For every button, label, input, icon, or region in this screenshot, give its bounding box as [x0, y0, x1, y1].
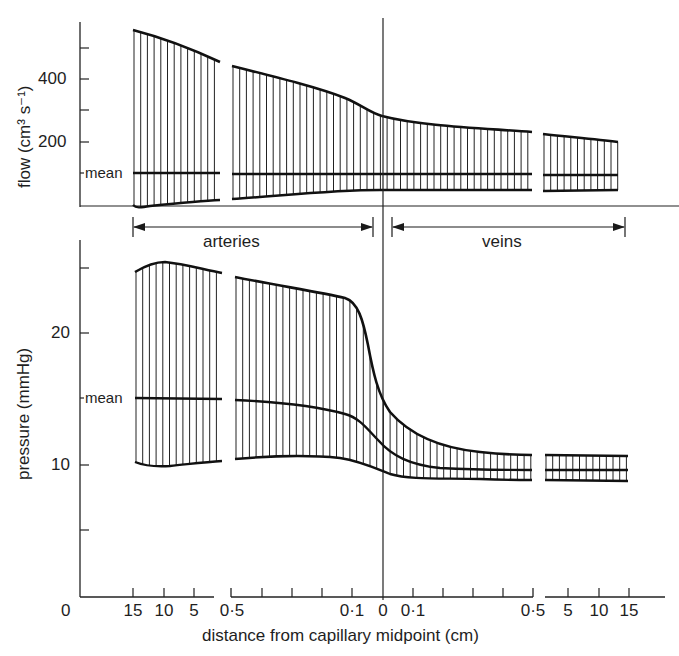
- flow-min-curve-3: [543, 190, 618, 191]
- flow-tick-200: 200: [38, 132, 66, 152]
- flow-min-curve-2: [232, 190, 532, 199]
- x-axis-title: distance from capillary midpoint (cm): [202, 626, 479, 646]
- pressure-upper-curve-1: [135, 262, 222, 273]
- pressure-mean-label: mean: [84, 389, 124, 406]
- pressure-lower-curve-3: [545, 480, 628, 481]
- flow-max-curve-veins-large: [543, 134, 618, 142]
- flow-mean-label: mean: [84, 164, 124, 181]
- pressure-mean-line-1: [135, 398, 222, 399]
- x-tick-label: 5: [189, 601, 198, 621]
- x-tick-label: 15: [124, 601, 143, 621]
- pressure-upper-curve-3: [545, 455, 628, 456]
- veins-label: veins: [482, 232, 522, 252]
- x-tick-label: 0: [378, 601, 387, 621]
- x-tick-label: 0·1: [401, 601, 426, 621]
- arteries-label: arteries: [203, 232, 260, 252]
- pressure-hatching: [136, 262, 626, 481]
- x-tick-label: 15: [620, 601, 639, 621]
- pressure-lower-curve-1: [135, 461, 222, 466]
- flow-panel: [80, 22, 679, 207]
- x-tick-label: 0·5: [220, 601, 245, 621]
- pressure-panel: [80, 240, 628, 597]
- flow-y-ticks: [80, 48, 89, 173]
- x-tick-label: 5: [563, 601, 572, 621]
- x-axis-ticks: [133, 588, 629, 597]
- x-origin-label: 0: [61, 601, 70, 621]
- x-tick-label: 10: [155, 601, 174, 621]
- pressure-tick-20: 20: [51, 323, 70, 343]
- x-tick-label: 0·5: [521, 601, 546, 621]
- pressure-tick-10: 10: [51, 455, 70, 475]
- flow-tick-400: 400: [38, 69, 66, 89]
- x-tick-label: 10: [590, 601, 609, 621]
- x-tick-label: 0·1: [340, 601, 365, 621]
- flow-y-axis-title: flow (cm³ s⁻¹): [14, 86, 35, 188]
- chart-canvas: [0, 0, 679, 656]
- pressure-y-axis-title: pressure (mmHg): [14, 348, 34, 480]
- flow-max-curve-arteries-large: [133, 30, 220, 62]
- x-axis: [80, 588, 665, 597]
- flow-max-curve-middle: [232, 66, 532, 132]
